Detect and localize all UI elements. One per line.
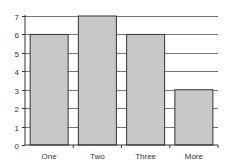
bar-three bbox=[127, 34, 165, 145]
y-tick-label: 2 bbox=[15, 105, 20, 114]
bar-more bbox=[175, 90, 213, 145]
y-tick-label: 0 bbox=[15, 142, 20, 151]
x-tick-label: Two bbox=[90, 152, 105, 161]
y-tick-labels: 01234567 bbox=[15, 13, 25, 151]
bar-one bbox=[30, 34, 68, 145]
y-tick-label: 7 bbox=[15, 13, 20, 22]
y-tick-label: 1 bbox=[15, 124, 20, 133]
y-tick-label: 6 bbox=[15, 31, 20, 40]
y-tick-label: 4 bbox=[15, 68, 20, 77]
bars bbox=[30, 16, 213, 145]
y-tick-label: 3 bbox=[15, 87, 20, 96]
y-tick-label: 5 bbox=[15, 50, 20, 59]
x-tick-label: More bbox=[185, 152, 204, 161]
x-tick-labels: OneTwoThreeMore bbox=[42, 145, 218, 161]
bar-two bbox=[78, 16, 116, 145]
bar-chart: 01234567 OneTwoThreeMore bbox=[0, 0, 229, 167]
x-tick-label: Three bbox=[135, 152, 156, 161]
x-tick-label: One bbox=[42, 152, 58, 161]
